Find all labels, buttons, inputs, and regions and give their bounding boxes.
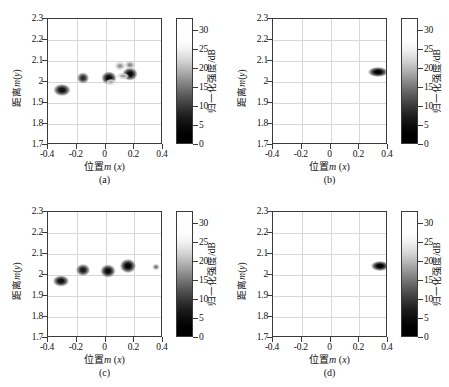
y-axis-tick-label: 1.8 [225, 311, 272, 321]
colorbar-tick-mark [418, 280, 423, 281]
gridline-horizontal [48, 254, 161, 255]
x-axis-tick-mark [76, 337, 77, 342]
colorbar-tick-mark [193, 87, 198, 88]
y-axis-tick-label: 2.1 [225, 248, 272, 258]
gridline-horizontal [273, 124, 386, 125]
y-axis-tick-mark [267, 81, 272, 82]
x-axis-tick-mark [358, 144, 359, 149]
colorbar-label: 归一化强度/dB [204, 18, 218, 144]
x-axis-tick-mark [47, 144, 48, 149]
gridline-horizontal [273, 233, 386, 234]
y-axis-tick-label: 1.9 [225, 290, 272, 300]
colorbar-tick-label: 0 [199, 139, 204, 149]
colorbar-tick-mark [193, 280, 198, 281]
y-axis-tick-label: 2.2 [225, 227, 272, 237]
gridline-horizontal [273, 254, 386, 255]
y-axis-tick-label: 1.8 [0, 311, 47, 321]
y-axis-tick-mark [267, 123, 272, 124]
y-axis-tick-mark [267, 211, 272, 212]
x-axis-tick-mark [133, 144, 134, 149]
colorbar-label-text: 归一化强度/dB [204, 242, 218, 306]
y-axis-tick-label: 1.7 [225, 332, 272, 342]
gridline-horizontal [48, 317, 161, 318]
gridline-horizontal [273, 296, 386, 297]
colorbar-tick-label: 5 [424, 120, 429, 130]
y-axis-tick-mark [42, 253, 47, 254]
y-axis-tick-mark [267, 39, 272, 40]
panel-caption: (a) [47, 174, 162, 185]
x-axis-tick-mark [301, 337, 302, 342]
heatmap-blob [371, 261, 387, 271]
x-axis-tick-mark [162, 337, 163, 342]
gridline-horizontal [48, 61, 161, 62]
x-axis-tick-mark [387, 337, 388, 342]
x-axis-tick-mark [47, 337, 48, 342]
gridline-horizontal [48, 275, 161, 276]
colorbar-tick-mark [418, 144, 423, 145]
y-axis-tick-mark [267, 253, 272, 254]
y-axis-tick-label: 2.2 [0, 227, 47, 237]
plot-area [47, 211, 162, 337]
y-axis-tick-mark [267, 232, 272, 233]
gridline-horizontal [273, 103, 386, 104]
y-axis-tick-mark [42, 60, 47, 61]
gridline-horizontal [48, 103, 161, 104]
colorbar-tick-mark [193, 318, 198, 319]
y-axis-label: 距离m(y) [234, 241, 248, 321]
gridline-horizontal [273, 317, 386, 318]
x-axis-tick-mark [330, 337, 331, 342]
colorbar-tick-mark [418, 30, 423, 31]
y-axis-tick-mark [42, 316, 47, 317]
x-axis-tick-mark [272, 144, 273, 149]
plot-area [272, 211, 387, 337]
y-axis-label: 距离m(y) [9, 241, 23, 321]
x-axis-tick-mark [272, 337, 273, 342]
gridline-horizontal [273, 275, 386, 276]
colorbar-tick-label: 5 [199, 313, 204, 323]
y-axis-tick-label: 2 [0, 269, 47, 279]
colorbar-label-text: 归一化强度/dB [204, 49, 218, 113]
colorbar-tick-mark [193, 106, 198, 107]
y-axis-tick-mark [267, 295, 272, 296]
x-axis-tick-mark [330, 144, 331, 149]
heatmap-blob [123, 68, 138, 81]
plot-area [47, 18, 162, 144]
heatmap-blob [53, 276, 69, 287]
x-axis-tick-mark [133, 337, 134, 342]
colorbar-tick-mark [418, 242, 423, 243]
y-axis-tick-label: 2.1 [225, 55, 272, 65]
colorbar-tick-mark [418, 261, 423, 262]
heatmap-blob [53, 84, 70, 96]
figure-four-panel-heatmaps: 1.71.81.922.12.22.3-0.4-0.200.20.4距离m(y)… [0, 0, 449, 387]
colorbar-tick-mark [193, 144, 198, 145]
y-axis-tick-label: 2 [225, 76, 272, 86]
colorbar [176, 18, 193, 144]
colorbar-tick-mark [418, 299, 423, 300]
x-axis-tick-mark [162, 144, 163, 149]
panel-caption: (c) [47, 367, 162, 378]
y-axis-label: 距离m(y) [9, 48, 23, 128]
colorbar-tick-mark [193, 49, 198, 50]
colorbar-tick-mark [193, 261, 198, 262]
y-axis-tick-mark [267, 18, 272, 19]
colorbar-tick-mark [418, 87, 423, 88]
y-axis-tick-label: 2.2 [225, 34, 272, 44]
y-axis-tick-label: 2 [0, 76, 47, 86]
y-axis-tick-mark [42, 211, 47, 212]
y-axis-tick-label: 2.1 [0, 55, 47, 65]
colorbar-tick-label: 0 [424, 332, 429, 342]
plot-area [272, 18, 387, 144]
colorbar-tick-mark [418, 49, 423, 50]
panel-b: 1.71.81.922.12.22.3-0.4-0.200.20.4距离m(y)… [225, 0, 449, 193]
y-axis-tick-mark [267, 60, 272, 61]
colorbar-tick-mark [193, 242, 198, 243]
colorbar-label: 归一化强度/dB [429, 211, 443, 337]
colorbar-tick-mark [418, 223, 423, 224]
y-axis-tick-label: 1.7 [225, 139, 272, 149]
colorbar-tick-mark [193, 299, 198, 300]
heatmap-blob [117, 73, 129, 79]
y-axis-tick-mark [42, 18, 47, 19]
colorbar-tick-label: 0 [199, 332, 204, 342]
gridline-horizontal [273, 61, 386, 62]
y-axis-tick-mark [42, 232, 47, 233]
